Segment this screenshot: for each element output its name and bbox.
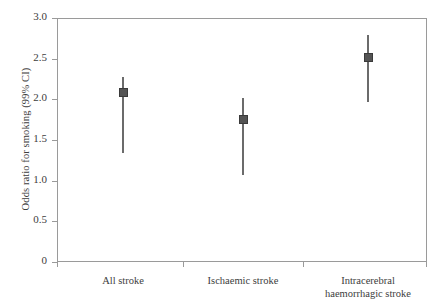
y-tick-label: 2.0 bbox=[33, 91, 47, 103]
y-tick-0: 0 bbox=[0, 262, 57, 263]
y-tick-label: 2.5 bbox=[33, 51, 47, 63]
x-tick-mark bbox=[57, 262, 58, 267]
y-tick-label: 0.5 bbox=[33, 213, 47, 225]
y-tick-label: 1.5 bbox=[33, 132, 47, 144]
y-tick-label: 3.0 bbox=[33, 10, 47, 22]
y-tick-1point5: 1.5 bbox=[0, 140, 57, 141]
errorbar-intracerebral-haemorrhagic-stroke bbox=[367, 35, 369, 102]
data-marker-intracerebral-haemorrhagic-stroke bbox=[364, 53, 373, 62]
y-tick-2point5: 2.5 bbox=[0, 59, 57, 60]
x-tick-mark bbox=[426, 262, 427, 267]
x-category-label-intracerebral-haemorrhagic-stroke: Intracerebral haemorrhagic stroke bbox=[306, 274, 430, 300]
x-category-label-all-stroke: All stroke bbox=[63, 274, 183, 287]
y-tick-label: 0 bbox=[42, 254, 48, 266]
x-tick-mark bbox=[303, 262, 304, 267]
y-tick-3point0: 3.0 bbox=[0, 18, 57, 19]
data-marker-ischaemic-stroke bbox=[239, 115, 248, 124]
y-tick-label: 1.0 bbox=[33, 173, 47, 185]
data-marker-all-stroke bbox=[119, 88, 128, 97]
errorbar-ischaemic-stroke bbox=[242, 98, 244, 175]
x-category-label-ischaemic-stroke: Ischaemic stroke bbox=[183, 274, 303, 287]
y-tick-2point0: 2.0 bbox=[0, 99, 57, 100]
y-tick-1point0: 1.0 bbox=[0, 181, 57, 182]
x-tick-mark bbox=[183, 262, 184, 267]
odds-ratio-forest-chart: Odds ratio for smoking (99% CI) 0 0.5 1.… bbox=[0, 0, 447, 306]
y-tick-0point5: 0.5 bbox=[0, 221, 57, 222]
